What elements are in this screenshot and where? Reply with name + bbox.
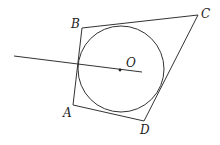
label-b: B bbox=[70, 17, 80, 31]
center-point-o bbox=[119, 69, 122, 72]
label-o: O bbox=[126, 56, 136, 70]
label-a: A bbox=[62, 106, 72, 120]
label-d: D bbox=[139, 123, 150, 137]
label-c: C bbox=[201, 7, 210, 21]
geometry-diagram: B C O A D bbox=[0, 0, 220, 145]
